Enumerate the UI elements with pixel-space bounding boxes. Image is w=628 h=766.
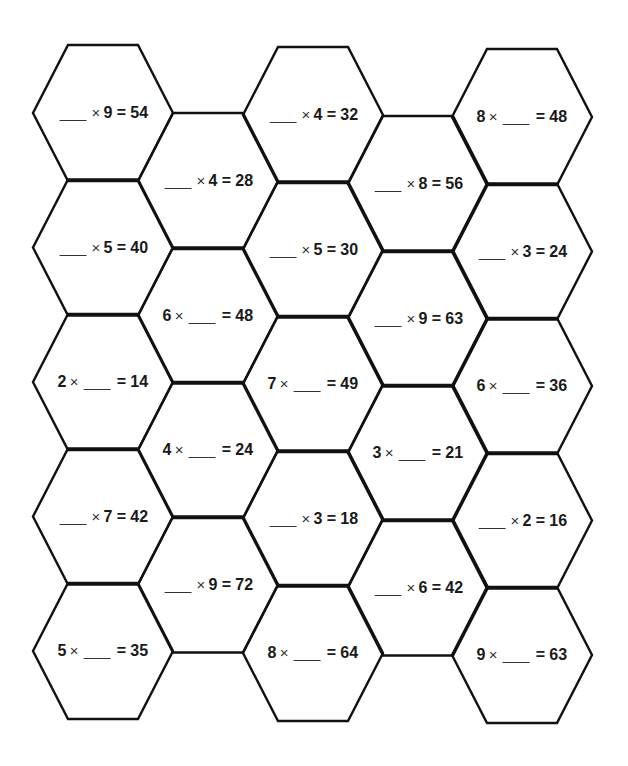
times-sign: ×: [302, 106, 311, 123]
times-sign: ×: [489, 377, 498, 394]
hex-cell-e3: 6×=36: [477, 376, 568, 396]
times-sign: ×: [385, 444, 394, 461]
times-sign: ×: [280, 644, 289, 661]
answer-blank[interactable]: [165, 187, 192, 189]
factor-a: 7: [268, 375, 277, 392]
answer-blank[interactable]: [270, 525, 297, 527]
equals-sign: =: [117, 642, 127, 659]
product: 28: [235, 172, 253, 189]
answer-blank[interactable]: [165, 591, 192, 593]
equals-sign: =: [432, 579, 442, 596]
product: 32: [340, 106, 358, 123]
factor-a: 6: [163, 307, 172, 324]
answer-blank[interactable]: [503, 123, 530, 125]
hex-cell-e5: 9×=63: [477, 645, 568, 665]
product: 14: [130, 373, 148, 390]
answer-blank[interactable]: [60, 254, 87, 256]
answer-blank[interactable]: [294, 659, 321, 661]
product: 49: [340, 375, 358, 392]
answer-blank[interactable]: [189, 456, 216, 458]
times-sign: ×: [92, 104, 101, 121]
times-sign: ×: [511, 243, 520, 260]
hex-cell-b2: 6×=48: [163, 306, 254, 326]
product: 54: [130, 104, 148, 121]
times-sign: ×: [302, 241, 311, 258]
product: 35: [130, 642, 148, 659]
product: 72: [235, 576, 253, 593]
times-sign: ×: [197, 172, 206, 189]
answer-blank[interactable]: [84, 657, 111, 659]
answer-blank[interactable]: [375, 190, 402, 192]
hex-cell-e1: 8×=48: [477, 107, 568, 127]
answer-blank[interactable]: [375, 594, 402, 596]
factor-b: 9: [209, 576, 218, 593]
factor-b: 4: [209, 172, 218, 189]
hex-cell-b4: ×9=72: [163, 575, 254, 595]
hex-cell-c5: 8×=64: [268, 643, 359, 663]
hex-cell-d2: ×9=63: [373, 309, 464, 329]
factor-a: 8: [268, 644, 277, 661]
hex-cell-e4: ×2=16: [477, 511, 568, 531]
times-sign: ×: [70, 373, 79, 390]
product: 48: [235, 307, 253, 324]
product: 63: [445, 310, 463, 327]
product: 56: [445, 175, 463, 192]
factor-a: 3: [373, 444, 382, 461]
answer-blank[interactable]: [270, 121, 297, 123]
times-sign: ×: [92, 508, 101, 525]
hex-cell-b3: 4×=24: [163, 440, 254, 460]
answer-blank[interactable]: [479, 527, 506, 529]
answer-blank[interactable]: [375, 325, 402, 327]
times-sign: ×: [70, 642, 79, 659]
equals-sign: =: [327, 241, 337, 258]
equals-sign: =: [432, 310, 442, 327]
times-sign: ×: [489, 646, 498, 663]
times-sign: ×: [280, 375, 289, 392]
answer-blank[interactable]: [270, 256, 297, 258]
answer-blank[interactable]: [503, 392, 530, 394]
hex-cell-a5: 5×=35: [58, 641, 149, 661]
equals-sign: =: [117, 373, 127, 390]
equals-sign: =: [327, 106, 337, 123]
factor-b: 3: [314, 510, 323, 527]
hex-cell-a3: 2×=14: [58, 372, 149, 392]
times-sign: ×: [407, 579, 416, 596]
equals-sign: =: [117, 104, 127, 121]
hex-cell-c1: ×4=32: [268, 105, 359, 125]
product: 42: [445, 579, 463, 596]
hex-cell-a2: ×5=40: [58, 238, 149, 258]
factor-b: 7: [104, 508, 113, 525]
factor-b: 5: [104, 239, 113, 256]
answer-blank[interactable]: [60, 523, 87, 525]
equals-sign: =: [222, 172, 232, 189]
answer-blank[interactable]: [294, 390, 321, 392]
product: 18: [340, 510, 358, 527]
hex-cell-a4: ×7=42: [58, 507, 149, 527]
hex-cell-d1: ×8=56: [373, 174, 464, 194]
equals-sign: =: [536, 377, 546, 394]
product: 63: [549, 646, 567, 663]
equals-sign: =: [536, 108, 546, 125]
product: 21: [445, 444, 463, 461]
answer-blank[interactable]: [503, 661, 530, 663]
hex-cell-d4: ×6=42: [373, 578, 464, 598]
product: 24: [549, 243, 567, 260]
factor-a: 9: [477, 646, 486, 663]
factor-a: 4: [163, 441, 172, 458]
answer-blank[interactable]: [84, 388, 111, 390]
answer-blank[interactable]: [189, 322, 216, 324]
answer-blank[interactable]: [60, 119, 87, 121]
equals-sign: =: [536, 512, 546, 529]
hexagon-worksheet: ×9=54 ×5=40 2×=14 ×7=42 5×=35 ×4=28 6×=4…: [0, 0, 628, 766]
answer-blank[interactable]: [399, 459, 426, 461]
hex-cell-b1: ×4=28: [163, 171, 254, 191]
equals-sign: =: [432, 175, 442, 192]
hex-cell-c3: 7×=49: [268, 374, 359, 394]
equals-sign: =: [222, 441, 232, 458]
times-sign: ×: [489, 108, 498, 125]
hex-cell-d3: 3×=21: [373, 443, 464, 463]
factor-b: 9: [419, 310, 428, 327]
answer-blank[interactable]: [479, 258, 506, 260]
factor-b: 9: [104, 104, 113, 121]
times-sign: ×: [302, 510, 311, 527]
